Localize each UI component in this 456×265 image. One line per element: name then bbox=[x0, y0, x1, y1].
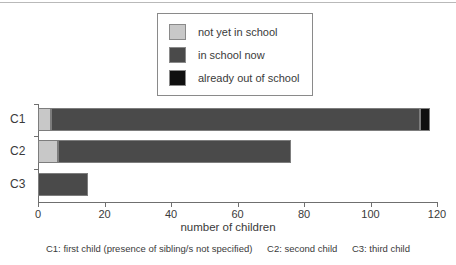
bar-segment-c2-in-school-now[interactable] bbox=[58, 140, 291, 163]
bar-c3[interactable] bbox=[38, 173, 88, 196]
bar-segment-c1-not-yet-in-school[interactable] bbox=[38, 108, 51, 131]
bar-segment-c1-in-school-now[interactable] bbox=[51, 108, 420, 131]
bar-segment-c2-not-yet-in-school[interactable] bbox=[38, 140, 58, 163]
x-axis-tick-label-40: 40 bbox=[165, 209, 177, 220]
y-axis-tick-c2 bbox=[34, 136, 39, 137]
y-axis-label-c1: C1 bbox=[10, 113, 36, 125]
x-axis-tick-label-100: 100 bbox=[361, 209, 379, 220]
caption-c2: C2: second child bbox=[267, 243, 337, 254]
x-axis-tick-40 bbox=[171, 202, 172, 207]
bar-segment-c1-already-out-of-school[interactable] bbox=[420, 108, 430, 131]
chart-caption: C1: first child (presence of sibling/s n… bbox=[0, 243, 456, 254]
y-axis-label-c3: C3 bbox=[10, 178, 36, 190]
x-axis-tick-label-20: 20 bbox=[98, 209, 110, 220]
x-axis-tick-80 bbox=[304, 202, 305, 207]
x-axis-tick-100 bbox=[371, 202, 372, 207]
x-axis-title: number of children bbox=[0, 221, 456, 233]
chart-root: not yet in school in school now already … bbox=[0, 0, 456, 265]
x-axis-tick-60 bbox=[238, 202, 239, 207]
x-axis-tick-label-80: 80 bbox=[298, 209, 310, 220]
caption-c3: C3: third child bbox=[352, 243, 410, 254]
bar-segment-c3-in-school-now[interactable] bbox=[38, 173, 88, 196]
y-axis-label-c2: C2 bbox=[10, 145, 36, 157]
x-axis-tick-label-120: 120 bbox=[428, 209, 446, 220]
y-axis-tick-c3 bbox=[34, 169, 39, 170]
x-axis-tick-0 bbox=[38, 202, 39, 207]
bar-c2[interactable] bbox=[38, 140, 291, 163]
caption-c1: C1: first child (presence of sibling/s n… bbox=[46, 243, 252, 254]
bar-c1[interactable] bbox=[38, 108, 430, 131]
x-axis-tick-20 bbox=[105, 202, 106, 207]
x-axis-tick-label-0: 0 bbox=[35, 209, 41, 220]
x-axis-tick-label-60: 60 bbox=[231, 209, 243, 220]
x-axis-tick-120 bbox=[437, 202, 438, 207]
y-axis-tick-c1 bbox=[34, 104, 39, 105]
